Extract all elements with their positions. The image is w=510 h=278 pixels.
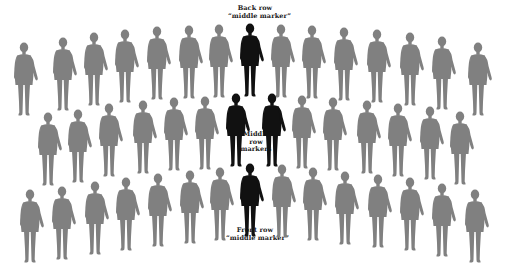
back-row-person-icon [466,42,494,118]
middle-row-person-icon [355,100,383,176]
back-row-person-icon [82,32,110,108]
front-row-marker-person-icon [238,163,266,239]
middle-row-marker-person-icon [260,93,288,169]
back-row-person-icon [365,29,393,105]
back-row-person-icon [207,24,235,100]
front-row-person-icon [270,164,298,240]
back-row-person-icon [430,36,458,112]
front-row-person-icon [463,189,491,265]
middle-row-person-icon [290,95,318,171]
middle-row-person-icon [193,96,221,172]
front-row-person-icon [301,167,329,243]
back-row-person-icon [51,37,79,113]
back-row-person-icon [269,24,297,100]
back-row-person-icon [12,42,40,118]
back-row-person-icon [332,27,360,103]
front-row-person-icon [398,177,426,253]
middle-row-person-icon [321,97,349,173]
back-row-person-icon [398,32,426,108]
middle-row-person-icon [97,103,125,179]
front-row-person-icon [208,167,236,243]
front-row-person-icon [146,173,174,249]
back-row-marker-label: Back row “middle marker” [228,5,282,20]
middle-row-person-icon [131,100,159,176]
back-row-person-icon [113,29,141,105]
front-row-person-icon [430,183,458,259]
middle-row-person-icon [418,106,446,182]
front-row-person-icon [333,171,361,247]
middle-row-person-icon [162,97,190,173]
back-row-person-icon [300,25,328,101]
front-row-person-icon [366,174,394,250]
front-row-person-icon [114,177,142,253]
front-row-person-icon [50,186,78,262]
middle-row-person-icon [386,103,414,179]
middle-row-person-icon [66,109,94,185]
middle-row-person-icon [448,111,476,187]
middle-row-marker-person-icon [224,93,252,169]
formation-diagram: Back row “middle marker” Middle row mark… [0,0,510,278]
front-row-person-icon [178,170,206,246]
back-row-label-line2: “middle marker” [228,13,282,21]
middle-row-person-icon [36,112,64,188]
back-row-person-icon [177,25,205,101]
back-row-person-icon [145,26,173,102]
back-row-marker-person-icon [238,23,266,99]
front-row-person-icon [18,189,46,265]
front-row-person-icon [83,181,111,257]
